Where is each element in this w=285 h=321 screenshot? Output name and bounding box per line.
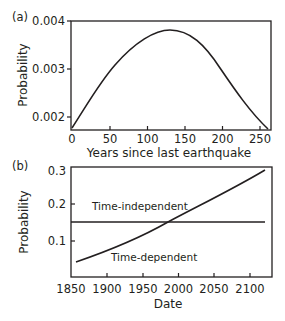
y-axis-label-b: Probability [17,190,31,253]
y-tick-label: 0.002 [32,110,65,124]
y-tick-label: 0.1 [48,234,66,248]
x-tick-label: 0 [68,132,75,146]
x-tick-label: 2050 [199,282,228,296]
y-axis-label-a: Probability [16,43,30,106]
x-tick-label: 2000 [164,282,193,296]
plot-frame-a [71,21,271,130]
x-tick-label: 50 [103,132,118,146]
chart-b: (b) 0.3 0.2 0.1 Probability 1850 1900 19… [12,159,272,311]
y-tick-label: 0.3 [48,164,66,178]
chart-a: (a) 0.004 0.003 0.002 Probability 0 50 1… [12,10,271,160]
time-independent-label: Time-independent [91,200,188,212]
time-dependent-curve [76,170,265,262]
x-axis-label-a: Years since last earthquake [86,146,251,160]
y-axis-b: 0.3 0.2 0.1 Probability [17,164,75,254]
x-tick-label: 1850 [56,282,85,296]
y-axis-a: 0.004 0.003 0.002 Probability [16,14,71,124]
y-tick-label: 0.2 [48,197,66,211]
x-axis-label-b: Date [154,297,183,311]
panel-label-a: (a) [12,10,28,24]
y-tick-label: 0.004 [32,14,65,28]
probability-curve [72,30,268,129]
time-dependent-label: Time-dependent [110,251,197,263]
figure: (a) 0.004 0.003 0.002 Probability 0 50 1… [0,0,285,321]
x-tick-label: 200 [212,132,234,146]
x-tick-label: 1950 [128,282,157,296]
x-tick-label: 100 [137,132,159,146]
panel-label-b: (b) [12,159,28,173]
x-tick-label: 1900 [92,282,121,296]
x-tick-label: 2100 [235,282,264,296]
x-tick-label: 250 [249,132,271,146]
y-tick-label: 0.003 [32,62,65,76]
x-tick-label: 150 [174,132,196,146]
x-axis-a: 0 50 100 150 200 250 Years since last ea… [68,126,271,160]
x-axis-b: 1850 1900 1950 2000 2050 2100 Date [56,273,264,311]
